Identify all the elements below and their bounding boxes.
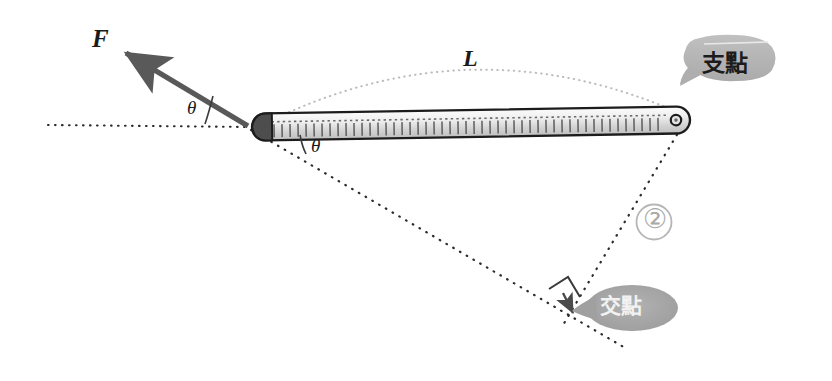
horizontal-reference-line (48, 125, 250, 127)
circled-number-label: ② (643, 206, 667, 233)
callout-intersection-tail (572, 296, 597, 320)
lever-bar-left-cap (252, 113, 272, 140)
callout-intersection-label: 交點 (600, 296, 642, 317)
diagram-canvas: F L θ θ ② 支點 交點 (0, 0, 832, 381)
angle-label-theta-1: θ (187, 98, 196, 117)
perpendicular-drop-line (251, 130, 627, 349)
angle-label-theta-2: θ (311, 136, 320, 155)
force-label-F: F (92, 26, 109, 51)
callout-fulcrum-label: 支點 (702, 52, 748, 75)
intersection-arrowhead (563, 293, 573, 313)
length-label-L: L (463, 46, 478, 70)
